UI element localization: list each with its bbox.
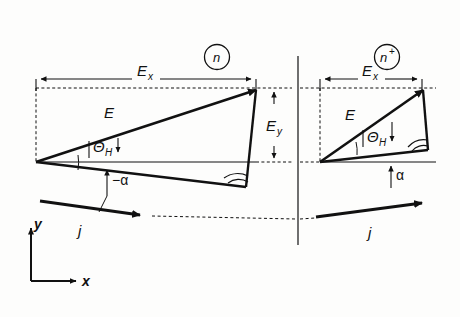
right-E-label: E xyxy=(345,106,356,123)
left-current-label: j xyxy=(76,222,82,239)
left-Ex-label: E xyxy=(137,62,148,79)
axis-label-x: x xyxy=(81,273,91,289)
left-Ex-dimension xyxy=(36,79,256,91)
left-Ex-subscript: x xyxy=(147,71,154,82)
right-region-group: E x E Θ H xyxy=(300,45,436,242)
right-region-badge-superscript: + xyxy=(389,46,395,57)
Ey-subscript: y xyxy=(276,126,283,137)
left-current-arrow xyxy=(40,201,296,219)
Ey-label: E xyxy=(266,117,277,134)
axis-label-y: y xyxy=(33,216,43,232)
right-current-arrow xyxy=(300,203,422,219)
left-E-label: E xyxy=(104,104,115,121)
right-Ex-label: E xyxy=(362,62,373,79)
right-Ex-dimension xyxy=(320,79,422,91)
right-theta-subscript: H xyxy=(379,137,387,148)
coordinate-axes xyxy=(31,228,76,281)
left-vertex-angle-arc xyxy=(224,174,248,183)
figure-container: E x E y E xyxy=(0,0,460,317)
right-theta-label: Θ xyxy=(367,128,379,145)
diagram-canvas: E x E y E xyxy=(0,0,460,317)
left-alpha-label: −α xyxy=(112,172,128,188)
right-Ex-subscript: x xyxy=(372,71,379,82)
left-region-badge-label: n xyxy=(213,50,220,65)
left-alpha-marker xyxy=(99,170,107,212)
left-region-group: E x E y E xyxy=(36,45,296,240)
left-tilted-edges xyxy=(36,90,256,187)
right-alpha-label: α xyxy=(396,167,404,183)
left-theta-label: Θ xyxy=(93,138,105,155)
right-current-label: j xyxy=(366,224,372,241)
left-theta-subscript: H xyxy=(105,147,113,158)
left-construction-lines xyxy=(36,88,292,162)
right-region-badge-label: n xyxy=(380,50,387,65)
left-E-vector xyxy=(36,90,256,162)
